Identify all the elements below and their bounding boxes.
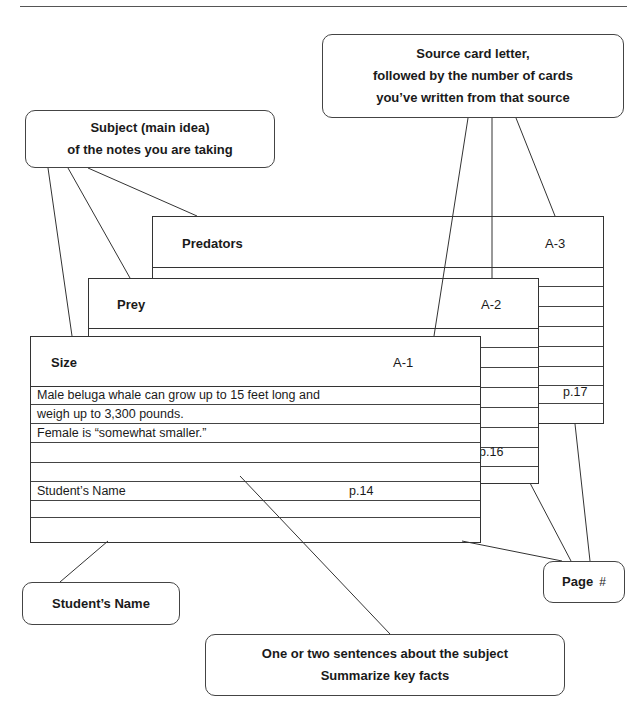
- note-card-a1: Size A-1 Male beluga whale can grow up t…: [30, 336, 481, 543]
- card-page-number: p.17: [563, 385, 587, 399]
- card-line: weigh up to 3,300 pounds.: [31, 405, 480, 424]
- subject-callout: Subject (main idea) of the notes you are…: [25, 110, 275, 168]
- hash-symbol: #: [599, 571, 606, 593]
- card-subject: Size: [51, 355, 77, 370]
- card-source-code: A-1: [393, 355, 413, 370]
- card-source-code: A-2: [481, 297, 501, 312]
- card-page-number: p.16: [479, 445, 503, 459]
- card-source-code: A-3: [545, 236, 565, 251]
- card-line: [31, 518, 480, 542]
- summary-callout: One or two sentences about the subject S…: [205, 634, 565, 696]
- source-callout: Source card letter, followed by the numb…: [322, 34, 624, 118]
- card-page-number: p.14: [349, 484, 373, 498]
- card-line: Female is “somewhat smaller.”: [31, 424, 480, 443]
- card-subject: Predators: [182, 236, 243, 251]
- card-line: [31, 501, 480, 518]
- card-line-student-name: Student’s Name p.14: [31, 482, 480, 501]
- student-name-callout: Student’s Name: [22, 582, 180, 625]
- card-line: Male beluga whale can grow up to 15 feet…: [31, 386, 480, 405]
- card-line: [31, 463, 480, 482]
- top-rule: [20, 6, 627, 7]
- card-subject: Prey: [117, 297, 145, 312]
- card-line: [31, 443, 480, 463]
- page-number-callout: Page #: [543, 561, 625, 603]
